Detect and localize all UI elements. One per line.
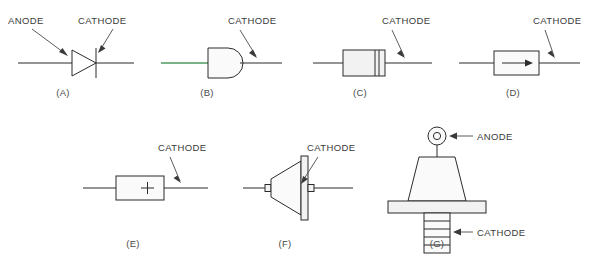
panel-a-letter: (A) bbox=[56, 87, 70, 98]
panel-d: CATHODE (D) bbox=[459, 15, 582, 98]
panel-b-body bbox=[208, 48, 243, 78]
panel-e: CATHODE (E) bbox=[83, 142, 208, 249]
panel-g-letter: (G) bbox=[430, 238, 445, 249]
panel-d-cathode-arrowhead bbox=[548, 51, 556, 59]
panel-g-flange bbox=[388, 201, 486, 213]
panel-g-cathode-arrowhead bbox=[453, 229, 461, 236]
panel-d-cathode-label: CATHODE bbox=[533, 15, 582, 26]
panel-g-cathode-label: CATHODE bbox=[477, 227, 526, 238]
panel-e-cathode-arrowhead bbox=[174, 176, 182, 184]
panel-f-cathode-plate bbox=[301, 156, 308, 220]
panel-a-anode-label: ANODE bbox=[8, 15, 44, 26]
panel-a-cathode-arrowhead bbox=[98, 45, 106, 53]
panel-f-cathode-label: CATHODE bbox=[307, 142, 356, 153]
panel-a-cathode-label: CATHODE bbox=[78, 15, 127, 26]
panel-e-cathode-label: CATHODE bbox=[158, 142, 207, 153]
diagram-canvas: ANODE CATHODE (A) CATHODE (B) CATHO bbox=[0, 0, 599, 261]
panel-b-cathode-label: CATHODE bbox=[228, 15, 277, 26]
panel-c-cathode-leader bbox=[392, 30, 404, 56]
panel-b: CATHODE (B) bbox=[161, 15, 282, 98]
panel-f-anode-contact bbox=[265, 185, 271, 192]
panel-e-body bbox=[116, 176, 164, 200]
panel-e-letter: (E) bbox=[126, 238, 140, 249]
panel-g: ANODE CATHODE (G) bbox=[388, 127, 526, 253]
panel-b-cathode-arrowhead bbox=[249, 50, 257, 59]
panel-f-cathode-contact bbox=[308, 185, 314, 192]
diode-symbols-diagram: ANODE CATHODE (A) CATHODE (B) CATHO bbox=[0, 0, 599, 261]
panel-a-anode-arrowhead bbox=[59, 48, 68, 56]
panel-c-cathode-label: CATHODE bbox=[382, 15, 431, 26]
panel-c-letter: (C) bbox=[353, 87, 367, 98]
panel-f-cone-body bbox=[271, 161, 301, 215]
panel-g-anode-label: ANODE bbox=[477, 131, 513, 142]
panel-b-letter: (B) bbox=[200, 87, 214, 98]
panel-d-letter: (D) bbox=[506, 87, 520, 98]
panel-f-letter: (F) bbox=[278, 238, 291, 249]
panel-c: CATHODE (C) bbox=[313, 15, 432, 98]
panel-g-anode-arrowhead bbox=[449, 133, 457, 140]
panel-g-body bbox=[408, 157, 466, 201]
panel-c-cathode-arrowhead bbox=[397, 50, 405, 58]
panel-a: ANODE CATHODE (A) bbox=[8, 15, 134, 98]
panel-g-ring-terminal bbox=[428, 127, 446, 145]
diode-triangle bbox=[72, 50, 96, 76]
panel-f: CATHODE (F) bbox=[243, 142, 356, 249]
